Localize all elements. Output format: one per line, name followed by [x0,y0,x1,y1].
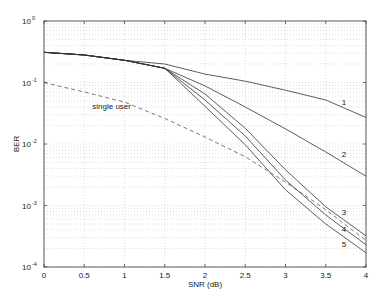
x-tick-label: 2.5 [240,271,252,280]
ber-vs-snr-chart: 00.511.522.533.5410010-110-210-310-4 123… [0,0,387,298]
y-tick-exponent: -4 [32,261,37,267]
series-label: single user [92,102,131,111]
y-tick-exponent: -2 [32,138,37,144]
x-tick-label: 0.5 [79,271,91,280]
series-label: 3 [342,208,347,217]
y-tick-exponent: -1 [32,77,37,83]
x-tick-label: 2 [203,271,208,280]
y-tick-label: 10 [22,79,31,88]
series-label: 2 [342,150,347,159]
grid-lines [44,21,366,267]
x-tick-label: 4 [364,271,369,280]
x-tick-label: 0 [42,271,47,280]
x-axis-label: SNR (dB) [188,280,223,289]
y-tick-exponent: -3 [32,200,37,206]
axis-ticks: 00.511.522.533.5410010-110-210-310-4 [22,15,369,280]
y-tick-label: 10 [22,202,31,211]
y-tick-label: 10 [22,17,31,26]
series-label: 4 [342,225,347,234]
y-tick-exponent: 0 [32,15,35,21]
series-label: 5 [342,240,347,249]
x-tick-label: 1 [122,271,127,280]
series-label: 1 [342,98,347,107]
x-tick-label: 3.5 [320,271,332,280]
x-tick-label: 1.5 [159,271,171,280]
y-tick-label: 10 [22,140,31,149]
y-tick-label: 10 [22,263,31,272]
x-tick-label: 3 [283,271,288,280]
y-axis-label: BER [12,136,21,153]
